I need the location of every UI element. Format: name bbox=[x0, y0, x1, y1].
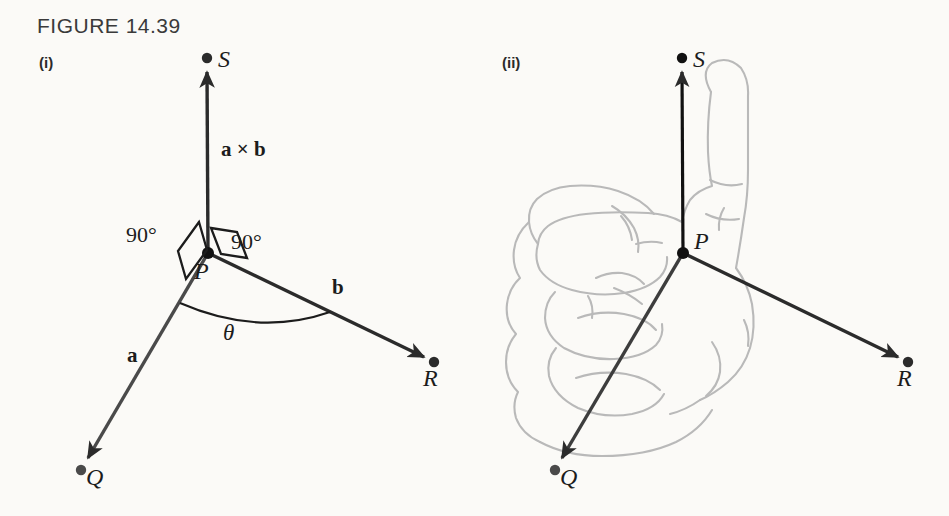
thumb-knuckle-crease bbox=[710, 180, 742, 185]
point-label-P-ii: P bbox=[694, 228, 709, 255]
thumb-inner-outline bbox=[682, 92, 712, 222]
label-vector-b-i: b bbox=[332, 275, 344, 300]
vector-a-line-i bbox=[88, 253, 208, 458]
index-knuckle-crease-3 bbox=[636, 242, 662, 244]
thumb-base-crease bbox=[706, 214, 739, 220]
index-finger-upper-outline bbox=[529, 186, 654, 244]
vector-b-line-i bbox=[208, 253, 424, 357]
index-finger-top-outline bbox=[538, 212, 682, 244]
right-hand-illustration bbox=[506, 60, 754, 456]
little-finger-crease bbox=[576, 373, 660, 390]
fist-outer-left-edge bbox=[506, 222, 540, 442]
vector-b-line-ii bbox=[683, 253, 898, 357]
label-right-angle-left-i: 90° bbox=[126, 222, 157, 248]
middle-finger-nail bbox=[596, 273, 644, 284]
label-right-angle-right-i: 90° bbox=[231, 229, 262, 255]
panel-i-diagram bbox=[76, 53, 439, 475]
middle-finger-outline bbox=[536, 244, 667, 294]
ring-finger-outline bbox=[545, 292, 662, 359]
point-Q-dot-i bbox=[76, 465, 86, 475]
point-Q-dot-ii bbox=[550, 465, 560, 475]
vector-cross-product-line-ii bbox=[682, 72, 683, 253]
point-label-S-ii: S bbox=[693, 46, 705, 73]
figure-14-39: FIGURE 14.39 (i) (ii) bbox=[0, 0, 949, 516]
palm-lower-crease bbox=[670, 400, 700, 414]
point-S-dot-i bbox=[202, 53, 212, 63]
point-label-R-i: R bbox=[423, 365, 438, 392]
panel-ii-diagram bbox=[506, 53, 913, 475]
angle-theta-arc-i bbox=[180, 303, 330, 323]
point-label-Q-ii: Q bbox=[560, 464, 577, 491]
point-P-dot-ii bbox=[677, 247, 689, 259]
figure-vector-artwork bbox=[0, 0, 949, 516]
point-label-Q-i: Q bbox=[86, 464, 103, 491]
palm-thenar-crease bbox=[706, 342, 720, 396]
point-S-dot-ii bbox=[677, 53, 687, 63]
palm-right-edge bbox=[700, 268, 754, 400]
point-label-R-ii: R bbox=[897, 365, 912, 392]
label-cross-product-i: a × b bbox=[221, 137, 266, 162]
palm-shading-stroke bbox=[744, 320, 749, 346]
point-label-P-i: P bbox=[194, 258, 209, 285]
label-vector-a-i: a bbox=[127, 343, 138, 368]
index-knuckle-crease-2 bbox=[621, 216, 632, 240]
thumb-outer-outline bbox=[706, 60, 748, 268]
vector-cross-product-line-i bbox=[207, 72, 208, 253]
point-label-S-i: S bbox=[218, 46, 230, 73]
label-theta-i: θ bbox=[223, 320, 234, 346]
